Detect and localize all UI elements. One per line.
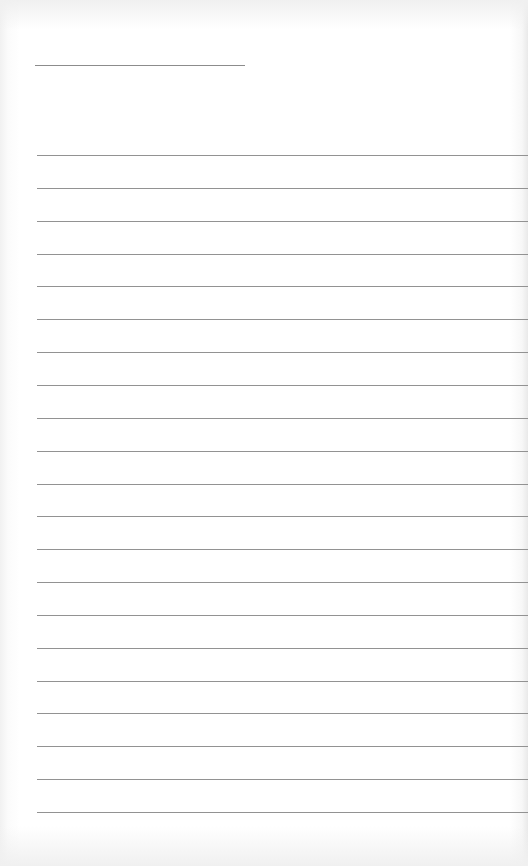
ruled-line [37, 286, 528, 287]
ruled-line [37, 582, 528, 583]
ruled-line [37, 319, 528, 320]
ruled-line [37, 746, 528, 747]
ruled-line [37, 549, 528, 550]
ruled-line [37, 484, 528, 485]
ruled-line [37, 418, 528, 419]
ruled-line [37, 352, 528, 353]
ruled-line [37, 713, 528, 714]
ruled-line [37, 385, 528, 386]
ruled-line [37, 615, 528, 616]
ruled-line [37, 221, 528, 222]
ruled-line [37, 812, 528, 813]
ruled-line [37, 779, 528, 780]
ruled-line [37, 516, 528, 517]
ruled-line [37, 451, 528, 452]
ruled-line [37, 681, 528, 682]
ruled-line [37, 188, 528, 189]
lined-paper [0, 0, 528, 866]
ruled-line [37, 254, 528, 255]
ruled-line [37, 155, 528, 156]
ruled-lines [0, 0, 528, 866]
ruled-line [37, 648, 528, 649]
